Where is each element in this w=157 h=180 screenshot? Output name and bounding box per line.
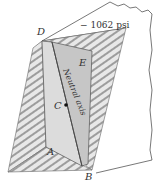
centroid-point [64, 103, 68, 107]
label-D: D [36, 26, 45, 37]
label-B: B [84, 171, 92, 180]
label-A: A [46, 146, 54, 157]
label-C: C [54, 100, 62, 111]
label-E: E [78, 57, 87, 68]
stress-value-label: − 1062 psi [80, 20, 130, 30]
stress-diagram: D E C A B − 1062 psi Neutral axis [0, 0, 157, 180]
